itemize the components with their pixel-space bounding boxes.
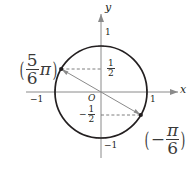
close-paren: ) (181, 130, 186, 150)
fraction-numerator: 1 (107, 59, 115, 68)
open-paren: ( (19, 60, 24, 80)
y-axis-label: y (105, 2, 111, 13)
fraction-denominator: 2 (107, 68, 115, 78)
point-marker-neg-pi-6 (139, 113, 143, 117)
x-tick-label-1: 1 (150, 95, 156, 104)
fraction-numerator: π (166, 122, 179, 139)
open-paren: ( (144, 130, 149, 150)
minus-sign: − (79, 110, 88, 119)
y-tick-label-neg1: −1 (104, 141, 117, 150)
label-5pi-over-6: ( 5 6 π) (18, 52, 59, 87)
origin-label: O (88, 94, 95, 103)
fraction-denominator: 6 (26, 69, 39, 87)
point-marker-5pi-6 (59, 67, 63, 71)
fraction-numerator: 5 (26, 52, 39, 69)
label-neg-pi-over-6: (− π 6 ) (143, 122, 187, 157)
fraction-denominator: 2 (88, 114, 96, 124)
fraction-one-half: 1 2 (88, 105, 96, 124)
value-one-half: 1 2 (107, 59, 115, 78)
x-axis-label: x (180, 84, 186, 95)
fraction-five-sixths: 5 6 (26, 52, 39, 87)
unit-circle-figure: x y O −1 1 1 −1 1 2 − 1 2 ( 5 6 π) (− π (0, 0, 194, 184)
fraction-one-half: 1 2 (107, 59, 115, 78)
x-tick-label-neg1: −1 (30, 95, 43, 104)
fraction-denominator: 6 (166, 139, 179, 157)
minus-sign: − (151, 131, 166, 148)
close-paren: ) (52, 60, 57, 80)
y-tick-label-1: 1 (105, 28, 111, 37)
paren-group: ( 5 6 π) (18, 52, 59, 87)
value-neg-one-half: − 1 2 (79, 105, 95, 124)
y-axis (98, 14, 104, 158)
fraction-pi-sixths: π 6 (166, 122, 179, 157)
pi-symbol: π (39, 61, 51, 78)
paren-group: (− π 6 ) (143, 122, 187, 157)
fraction-numerator: 1 (88, 105, 96, 114)
